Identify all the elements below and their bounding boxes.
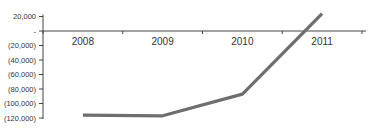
- x-axis: 2008200920102011: [43, 31, 366, 47]
- y-tick-label: 20,000: [13, 12, 36, 21]
- y-tick-label: -: [34, 27, 37, 36]
- data-series: [83, 14, 322, 116]
- x-category-label: 2008: [72, 36, 95, 47]
- x-category-label: 2011: [311, 36, 333, 47]
- y-axis: 20,000-(20,000)(40,000)(60,000)(80,000)(…: [4, 12, 43, 123]
- x-category-label: 2010: [231, 36, 254, 47]
- y-tick-label: (60,000): [8, 70, 36, 79]
- series-line: [83, 14, 322, 116]
- y-tick-label: (80,000): [8, 85, 36, 94]
- x-category-label: 2009: [152, 36, 175, 47]
- y-tick-label: (20,000): [8, 41, 36, 50]
- y-tick-label: (120,000): [4, 114, 37, 123]
- y-tick-label: (40,000): [8, 56, 36, 65]
- y-tick-label: (100,000): [4, 99, 37, 108]
- line-chart: 20,000-(20,000)(40,000)(60,000)(80,000)(…: [0, 0, 373, 133]
